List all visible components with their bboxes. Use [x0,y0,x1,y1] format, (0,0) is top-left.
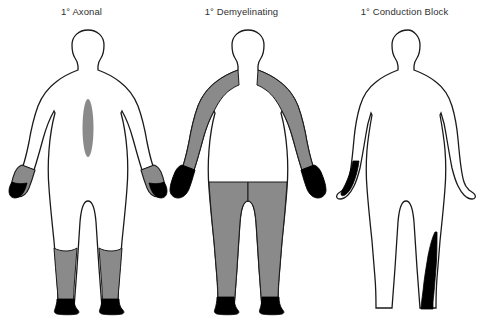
left-hand-axonal [9,165,35,198]
left-hand-black-shading [170,165,195,198]
body-figures-svg [0,0,487,329]
figure-conduction-block [337,30,476,309]
right-lower-leg-gray-shading [99,248,122,307]
body-outline-demyelinating [183,30,313,308]
left-fingers-black-shading [9,182,27,198]
right-hand-axonal [141,165,167,198]
right-foot-black-shading [259,297,283,315]
figure-axonal [9,30,167,315]
body-outline-axonal [23,30,153,308]
figure-demyelinating [170,30,326,315]
left-lower-leg-gray-shading [54,248,77,307]
neuropathy-distribution-figure: 1° Axonal 1° Demyelinating 1° Conduction… [0,0,487,329]
left-foot-black-shading [54,299,78,315]
mid-back-spindle-shading [83,99,94,157]
right-full-leg-gray-shading [248,182,287,308]
right-foot-black-shading [99,299,123,315]
right-hand-black-shading [301,165,326,198]
left-full-leg-gray-shading [209,182,248,308]
right-fingers-black-shading [149,182,167,198]
